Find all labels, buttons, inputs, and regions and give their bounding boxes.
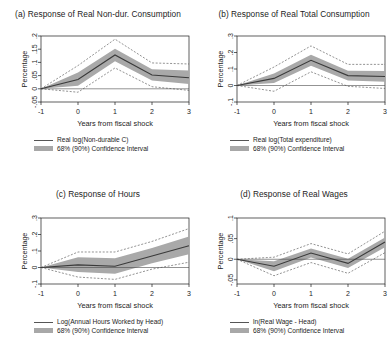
y-tick-label: .05 — [31, 71, 38, 81]
legend-row-ci: 68% (90%) Confidence Interval — [196, 327, 392, 336]
line-key-icon — [230, 322, 249, 323]
x-tick-label: 0 — [76, 108, 80, 115]
panel-a-title: (a) Response of Real Non-dur. Consumptio… — [0, 9, 196, 19]
x-tick-label: 1 — [309, 108, 313, 115]
y-tick-label: .2 — [31, 231, 38, 237]
y-axis-title: Percentage — [20, 51, 29, 88]
x-axis-title: Years from fiscal shock — [77, 301, 153, 310]
y-tick-label: -.1 — [227, 98, 234, 106]
x-tick-label: 1 — [113, 290, 117, 297]
panel-c-title: (c) Response of Hours — [0, 189, 196, 199]
x-tick-label: -1 — [38, 108, 44, 115]
panel-a-legend: Real log(Non-durable C) 68% (90%) Confid… — [0, 136, 196, 153]
legend-row-ci: 68% (90%) Confidence Interval — [0, 145, 196, 154]
panel-b-legend: Real log(Total expenditure) 68% (90%) Co… — [196, 136, 392, 153]
x-tick-label: 2 — [150, 108, 154, 115]
y-tick-label: 0 — [227, 257, 234, 261]
legend-ci-label: 68% (90%) Confidence Interval — [57, 327, 148, 336]
line-key-icon — [230, 140, 249, 141]
panel-c-svg: -10123-.10.1.2.3PercentageYears from fis… — [0, 212, 196, 312]
panel-d-svg: -10123-.050.05.1PercentageYears from fis… — [196, 212, 392, 312]
legend-row-ci: 68% (90%) Confidence Interval — [0, 327, 196, 336]
x-tick-label: 2 — [346, 108, 350, 115]
x-tick-label: 2 — [150, 290, 154, 297]
band-key-icon — [34, 328, 53, 333]
y-tick-label: .05 — [227, 234, 234, 244]
y-tick-label: -.1 — [31, 280, 38, 288]
panel-b-plot: -10123-.10.1.2.3PercentageYears from fis… — [196, 30, 392, 130]
legend-series-label: Real log(Non-durable C) — [57, 136, 128, 145]
legend-row-series: Log(Annual Hours Worked by Head) — [0, 318, 196, 327]
legend-series-label: ln(Real Wage - Head) — [253, 318, 317, 327]
panel-d: (d) Response of Real Wages -10123-.050.0… — [196, 180, 392, 361]
panel-c-legend: Log(Annual Hours Worked by Head) 68% (90… — [0, 318, 196, 335]
panel-d-title: (d) Response of Real Wages — [196, 189, 392, 199]
panel-b-title: (b) Response of Real Total Consumption — [196, 9, 392, 19]
x-tick-label: 3 — [187, 290, 191, 297]
line-key-icon — [34, 140, 53, 141]
y-tick-label: 0 — [227, 83, 234, 87]
x-tick-label: -1 — [234, 290, 240, 297]
x-tick-label: 1 — [309, 290, 313, 297]
y-tick-label: .1 — [227, 66, 234, 72]
band-key-icon — [34, 146, 53, 151]
x-axis-title: Years from fiscal shock — [77, 119, 153, 128]
y-tick-label: .15 — [31, 44, 38, 54]
x-tick-label: 1 — [113, 108, 117, 115]
legend-series-label: Real log(Total expenditure) — [253, 136, 332, 145]
y-tick-label: -.05 — [31, 96, 38, 108]
x-axis-title: Years from fiscal shock — [273, 301, 349, 310]
y-tick-label: -.05 — [227, 274, 234, 286]
legend-row-series: ln(Real Wage - Head) — [196, 318, 392, 327]
y-tick-label: .3 — [227, 33, 234, 39]
y-tick-label: .1 — [31, 248, 38, 254]
band-key-icon — [230, 328, 249, 333]
panel-c: (c) Response of Hours -10123-.10.1.2.3Pe… — [0, 180, 196, 361]
x-tick-label: 0 — [76, 290, 80, 297]
legend-row-series: Real log(Non-durable C) — [0, 136, 196, 145]
y-axis-title: Percentage — [216, 233, 225, 270]
panel-a: (a) Response of Real Non-dur. Consumptio… — [0, 0, 196, 180]
legend-series-label: Log(Annual Hours Worked by Head) — [57, 318, 163, 327]
panel-c-plot: -10123-.10.1.2.3PercentageYears from fis… — [0, 212, 196, 312]
legend-ci-label: 68% (90%) Confidence Interval — [253, 145, 344, 154]
y-tick-label: .2 — [31, 33, 38, 39]
figure-grid: (a) Response of Real Non-dur. Consumptio… — [0, 0, 392, 361]
y-tick-label: .1 — [227, 215, 234, 221]
legend-row-ci: 68% (90%) Confidence Interval — [196, 145, 392, 154]
panel-d-legend: ln(Real Wage - Head) 68% (90%) Confidenc… — [196, 318, 392, 335]
panel-a-svg: -10123-.050.05.1.15.2PercentageYears fro… — [0, 30, 196, 130]
plot-frame — [41, 36, 189, 102]
y-tick-label: .3 — [31, 215, 38, 221]
y-tick-label: 0 — [31, 87, 38, 91]
band-key-icon — [230, 146, 249, 151]
x-axis-title: Years from fiscal shock — [273, 119, 349, 128]
x-tick-label: 0 — [272, 108, 276, 115]
y-tick-label: 0 — [31, 265, 38, 269]
y-axis-title: Percentage — [216, 51, 225, 88]
panel-b: (b) Response of Real Total Consumption -… — [196, 0, 392, 180]
x-tick-label: 0 — [272, 290, 276, 297]
x-tick-label: -1 — [38, 290, 44, 297]
x-tick-label: 2 — [346, 290, 350, 297]
panel-d-plot: -10123-.050.05.1PercentageYears from fis… — [196, 212, 392, 312]
panel-b-svg: -10123-.10.1.2.3PercentageYears from fis… — [196, 30, 392, 130]
legend-row-series: Real log(Total expenditure) — [196, 136, 392, 145]
x-tick-label: -1 — [234, 108, 240, 115]
legend-ci-label: 68% (90%) Confidence Interval — [253, 327, 344, 336]
y-tick-label: .1 — [31, 59, 38, 65]
x-tick-label: 3 — [383, 290, 387, 297]
panel-a-plot: -10123-.050.05.1.15.2PercentageYears fro… — [0, 30, 196, 130]
line-key-icon — [34, 322, 53, 323]
y-axis-title: Percentage — [20, 233, 29, 270]
x-tick-label: 3 — [383, 108, 387, 115]
x-tick-label: 3 — [187, 108, 191, 115]
confidence-band-68 — [41, 236, 189, 273]
y-tick-label: .2 — [227, 49, 234, 55]
legend-ci-label: 68% (90%) Confidence Interval — [57, 145, 148, 154]
